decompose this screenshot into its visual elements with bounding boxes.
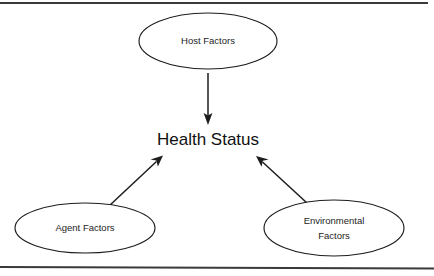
environmental-factors-label-line2: Factors [318, 230, 350, 241]
edge-agent-to-health [109, 156, 163, 207]
bottom-border-rule [0, 267, 434, 269]
node-agent-factors[interactable]: Agent Factors [15, 203, 155, 253]
diagram-page: Host Factors Agent Factors Environmental… [0, 0, 434, 276]
edge-environment-to-health-line [263, 162, 308, 203]
node-host-factors[interactable]: Host Factors [139, 13, 277, 69]
host-factors-label: Host Factors [181, 35, 235, 46]
health-status-label: Health Status [157, 130, 259, 149]
environmental-factors-label-line1: Environmental [304, 215, 365, 226]
edge-host-to-health [204, 73, 213, 125]
health-status-diagram: Host Factors Agent Factors Environmental… [0, 0, 434, 276]
node-environmental-factors[interactable]: Environmental Factors [264, 200, 404, 256]
agent-factors-label: Agent Factors [55, 222, 114, 233]
environmental-factors-ellipse[interactable] [264, 200, 404, 256]
edge-agent-to-health-line [109, 162, 157, 207]
edge-environment-to-health [256, 156, 307, 203]
